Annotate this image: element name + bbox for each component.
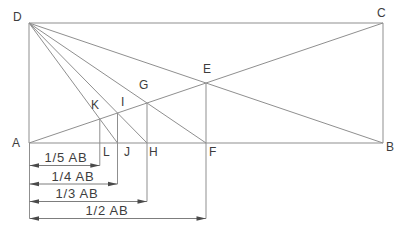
dimension-one-fifth: 1/5 AB bbox=[30, 150, 100, 168]
arrowhead-right bbox=[108, 182, 118, 186]
arrowhead-left bbox=[30, 216, 40, 220]
arrowhead-right bbox=[197, 216, 207, 220]
point-label-i: I bbox=[121, 95, 124, 109]
point-label-g: G bbox=[139, 78, 148, 92]
arrowhead-right bbox=[90, 163, 100, 167]
dim-label-one-fifth: 1/5 AB bbox=[44, 150, 87, 165]
point-label-f: F bbox=[209, 145, 216, 159]
construction-line-dj bbox=[29, 23, 118, 143]
arrowhead-left bbox=[30, 199, 40, 203]
dimension-one-half: 1/2 AB bbox=[30, 203, 207, 221]
point-label-h: H bbox=[149, 145, 158, 159]
arrowhead-left bbox=[30, 163, 40, 167]
point-label-d: D bbox=[13, 10, 22, 24]
construction-line-dh bbox=[29, 23, 147, 143]
point-label-j: J bbox=[124, 145, 130, 159]
geometry-diagram: 1/5 AB 1/4 AB 1/3 AB 1/2 AB D C A B E bbox=[0, 0, 404, 235]
point-label-c: C bbox=[377, 6, 386, 20]
dim-label-one-third: 1/3 AB bbox=[55, 186, 98, 201]
arrowhead-left bbox=[30, 182, 40, 186]
point-label-a: A bbox=[12, 136, 20, 150]
point-label-e: E bbox=[203, 62, 211, 76]
dimension-one-third: 1/3 AB bbox=[30, 186, 148, 204]
point-label-b: B bbox=[386, 140, 394, 154]
point-label-l: L bbox=[103, 145, 110, 159]
dim-label-one-half: 1/2 AB bbox=[85, 203, 128, 218]
arrowhead-right bbox=[138, 199, 148, 203]
dimension-one-quarter: 1/4 AB bbox=[30, 169, 118, 187]
point-label-k: K bbox=[91, 98, 99, 112]
construction-drawing: 1/5 AB 1/4 AB 1/3 AB 1/2 AB D C A B E bbox=[0, 0, 404, 235]
dim-label-one-quarter: 1/4 AB bbox=[51, 169, 94, 184]
